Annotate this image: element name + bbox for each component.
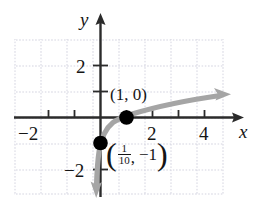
x-axis-label: x [239, 122, 247, 141]
point-label-one-zero: (1, 0) [110, 86, 147, 103]
x-tick-label-minus-2: −2 [18, 124, 38, 143]
x-tick-label-4: 4 [199, 124, 209, 143]
open-paren: ( [106, 142, 117, 167]
plot-canvas [0, 0, 265, 208]
y-tick-label-2: 2 [76, 57, 86, 76]
annotation-second-value: −1 [135, 146, 157, 163]
y-tick-label-minus-2: −2 [64, 161, 84, 180]
close-paren: ) [157, 142, 168, 167]
logarithmic-function-graph: y x 2 −2 −2 2 4 (1, 0) ( 1 10 , −1 ) [0, 0, 265, 208]
point-label-tenth-negative-one: ( 1 10 , −1 ) [106, 142, 168, 167]
fraction-numerator: 1 [120, 143, 128, 154]
y-axis-label: y [80, 10, 88, 29]
fraction-one-tenth: 1 10 [118, 143, 131, 166]
fraction-denominator: 10 [118, 155, 131, 166]
x-tick-label-2: 2 [147, 124, 157, 143]
point-marker-one-zero [119, 110, 134, 125]
